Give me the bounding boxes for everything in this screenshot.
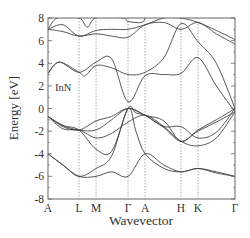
- y-tick-label: 4: [38, 57, 44, 69]
- y-tick-label: -6: [34, 170, 44, 182]
- x-tick-label: L: [76, 202, 83, 214]
- band-line: [48, 154, 235, 178]
- y-tick-label: 2: [38, 80, 44, 92]
- y-tick-label: -8: [34, 193, 44, 205]
- band-lines: [48, 17, 235, 178]
- y-axis-ticks: -8-6-4-202468: [34, 12, 235, 205]
- band-line: [48, 17, 145, 30]
- x-tick-label: K: [194, 202, 203, 214]
- band-line: [48, 112, 235, 146]
- y-tick-label: 6: [38, 35, 44, 47]
- band-line: [48, 17, 235, 39]
- x-tick-label: Γ: [232, 202, 239, 214]
- y-tick-label: -2: [34, 125, 44, 137]
- x-tick-label: M: [91, 202, 101, 214]
- y-tick-label: 0: [38, 103, 44, 115]
- band-structure-chart: -8-6-4-202468 ALMΓAHKΓ: [0, 0, 250, 238]
- band-line: [48, 56, 235, 112]
- y-tick-label: -4: [34, 148, 44, 160]
- y-tick-label: 8: [38, 12, 44, 24]
- material-label: InN: [55, 82, 71, 93]
- plot-frame: [48, 18, 235, 199]
- band-line: [48, 23, 235, 108]
- x-tick-label: A: [44, 202, 53, 214]
- band-line: [48, 108, 235, 176]
- x-tick-label: H: [177, 202, 185, 214]
- y-axis-label: Energy [eV]: [6, 76, 22, 140]
- x-axis-label: Wavevector: [109, 213, 173, 229]
